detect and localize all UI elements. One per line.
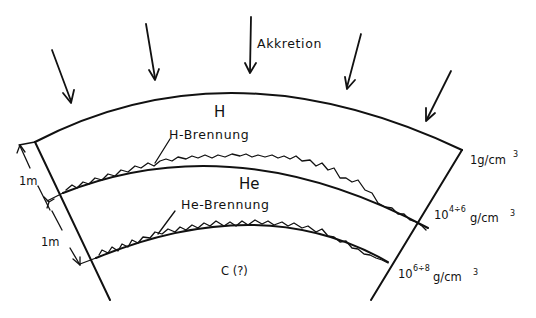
accretion-arrows xyxy=(52,17,451,121)
density-label-surface: 1g/cm 3 xyxy=(470,150,518,167)
accretion-arrow-icon xyxy=(347,34,361,87)
layer-label-h: H xyxy=(214,103,225,121)
he-c-boundary-arc xyxy=(96,225,388,262)
accretion-shell-diagram: Akkretion H-Brennung He-Brennung 1m 1m H… xyxy=(0,0,536,318)
dimension-line xyxy=(52,211,62,230)
density-superscript: 4÷6 xyxy=(449,205,466,214)
density-label-he-c: 10 6÷8 g/cm 3 xyxy=(398,264,478,284)
density-unit: g/cm xyxy=(470,211,499,225)
layer-label-he: He xyxy=(239,175,260,193)
accretion-arrow-icon xyxy=(146,24,155,78)
dimension-line xyxy=(70,248,80,265)
accretion-arrow-icon xyxy=(427,71,451,119)
arrowhead-icon xyxy=(426,108,435,121)
dimension-line xyxy=(20,146,30,168)
density-value: 1g/cm xyxy=(470,153,506,167)
left-boundary-line xyxy=(35,142,110,300)
density-exponent: 3 xyxy=(473,268,478,277)
layer-label-c: C (?) xyxy=(221,264,248,278)
accretion-label: Akkretion xyxy=(257,36,322,51)
density-superscript: 6÷8 xyxy=(413,264,430,273)
density-label-h-he: 10 4÷6 g/cm 3 xyxy=(434,205,515,225)
tick-line xyxy=(80,258,96,264)
h-burning-label: H-Brennung xyxy=(169,127,249,142)
accretion-arrow-icon xyxy=(250,17,251,71)
density-exponent: 3 xyxy=(513,150,518,159)
thickness-label-h: 1m xyxy=(19,174,38,188)
density-base: 10 xyxy=(434,208,449,222)
density-unit: g/cm xyxy=(433,270,462,284)
tick-line xyxy=(19,142,35,145)
he-burning-label: He-Brennung xyxy=(181,197,270,212)
accretion-arrow-icon xyxy=(52,50,71,101)
thickness-label-he: 1m xyxy=(41,235,60,249)
density-base: 10 xyxy=(398,267,413,281)
density-exponent: 3 xyxy=(510,209,515,218)
